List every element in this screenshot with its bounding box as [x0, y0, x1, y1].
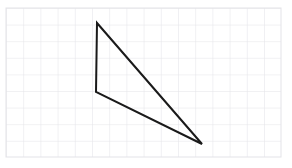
- figure-svg: [0, 0, 292, 168]
- drawing-canvas: [0, 0, 292, 168]
- grid-area: [6, 8, 281, 157]
